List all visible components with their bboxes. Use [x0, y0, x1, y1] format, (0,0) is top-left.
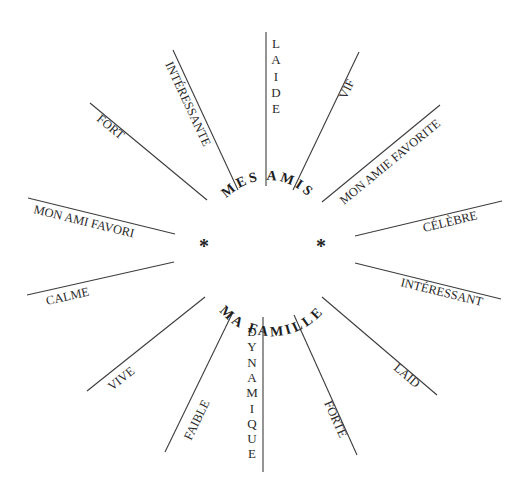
asterisk-right-icon: *: [316, 235, 326, 257]
spoke-label: INTÉRESSANTE: [162, 59, 213, 148]
spoke-mon-ami-favori: MON AMI FAVORI: [28, 198, 175, 240]
spoke-label: LAID: [391, 361, 423, 391]
center-top-label: MES AMIS: [218, 168, 318, 201]
spoke-label: FAIBLE: [181, 397, 213, 442]
spoke-interessant: INTÉRESSANT: [355, 263, 501, 309]
spoke-line: [173, 50, 238, 190]
center-hub: MES AMIS MA FAMILLE * *: [199, 168, 327, 340]
spoke-label: CALME: [45, 285, 91, 308]
spoke-label: FORTE: [321, 398, 350, 439]
spoke-dynamique: DYNAMIQUE: [246, 317, 263, 472]
spoke-label-vertical: DYNAMIQUE: [246, 324, 258, 461]
spoke-forte: FORTE: [294, 315, 357, 455]
spoke-mon-amie-favorite: MON AMIE FAVORITE: [322, 105, 443, 207]
spoke-laid: LAID: [322, 297, 437, 395]
spoke-label: MON AMI FAVORI: [32, 202, 135, 240]
spoke-faible: FAIBLE: [165, 312, 233, 452]
spoke-label: FORT: [94, 112, 127, 143]
spoke-label-vertical: LAIDE: [271, 36, 281, 116]
spoke-label: VIVE: [105, 364, 137, 394]
spoke-vif: VIF: [293, 52, 359, 190]
spoke-celebre: CÉLÈBRE: [355, 201, 502, 236]
spoke-line: [322, 105, 440, 202]
spoke-calme: CALME: [27, 262, 174, 308]
spider-diagram: LAIDE VIF MON AMIE FAVORITE CÉLÈBRE INTÉ…: [0, 0, 529, 494]
spoke-label: INTÉRESSANT: [399, 275, 484, 309]
spoke-vive: VIVE: [87, 297, 205, 393]
center-bottom-label: MA FAMILLE: [217, 303, 327, 340]
spoke-label: MON AMIE FAVORITE: [337, 116, 443, 207]
spoke-laide: LAIDE: [266, 32, 281, 186]
spoke-label: VIF: [336, 77, 357, 101]
spoke-label: CÉLÈBRE: [421, 208, 479, 235]
spoke-line: [27, 262, 174, 295]
spoke-interessante: INTÉRESSANTE: [162, 50, 238, 190]
spoke-line: [87, 297, 205, 391]
asterisk-left-icon: *: [199, 235, 209, 257]
spoke-line: [293, 52, 359, 190]
